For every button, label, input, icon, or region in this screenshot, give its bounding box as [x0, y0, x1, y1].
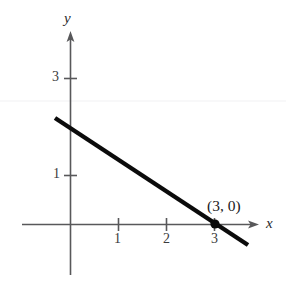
y-tick-label-3: 3: [52, 70, 59, 84]
plot-canvas: [0, 0, 286, 287]
y-tick-label-1: 1: [53, 167, 60, 181]
x-tick-label-3: 3: [211, 232, 218, 246]
x-intercept-annotation: (3, 0): [207, 198, 241, 214]
data-point-x-intercept: [210, 219, 219, 228]
x-tick-label-2: 2: [163, 232, 170, 246]
x-tick-label-1: 1: [114, 232, 121, 246]
x-axis-label: x: [266, 216, 273, 231]
y-axis-label: y: [64, 11, 71, 26]
graph-figure: y x 3 1 1 2 3 (3, 0): [0, 0, 286, 287]
